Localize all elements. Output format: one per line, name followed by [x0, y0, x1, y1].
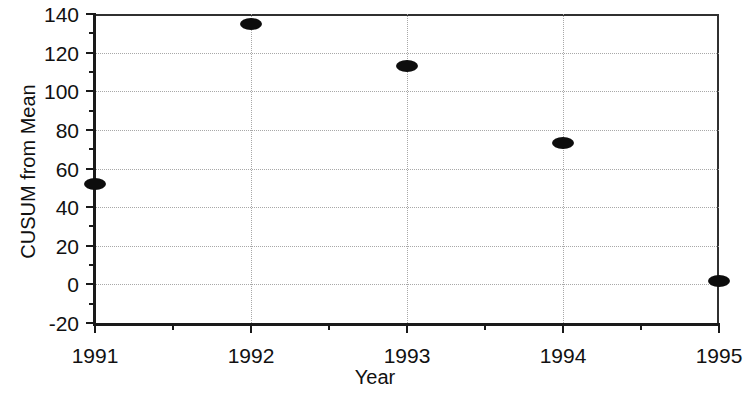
- y-tick-major: [86, 245, 96, 247]
- data-point: [240, 18, 262, 30]
- data-point: [552, 137, 574, 149]
- x-tick-major: [406, 323, 408, 333]
- gridline-vertical: [251, 14, 252, 323]
- x-tick-major: [94, 323, 96, 333]
- y-tick-minor: [89, 303, 96, 305]
- y-tick-label: 80: [1, 120, 79, 141]
- y-tick-label: -20: [1, 313, 79, 334]
- y-tick-label: 140: [1, 4, 79, 25]
- x-tick-minor: [172, 323, 174, 330]
- x-tick-label: 1991: [40, 345, 150, 366]
- y-tick-label: 20: [1, 236, 79, 257]
- y-tick-minor: [89, 32, 96, 34]
- y-tick-major: [86, 13, 96, 15]
- x-tick-label: 1993: [352, 345, 462, 366]
- plot-area: [95, 14, 719, 323]
- x-tick-major: [718, 323, 720, 333]
- y-tick-minor: [89, 71, 96, 73]
- y-tick-minor: [89, 225, 96, 227]
- x-tick-minor: [484, 323, 486, 330]
- y-tick-major: [86, 52, 96, 54]
- y-tick-label: 40: [1, 197, 79, 218]
- x-tick-label: 1992: [196, 345, 306, 366]
- y-tick-major: [86, 129, 96, 131]
- y-tick-label: 100: [1, 81, 79, 102]
- y-tick-label: 60: [1, 159, 79, 180]
- x-tick-label: 1994: [508, 345, 618, 366]
- x-axis-title: Year: [0, 366, 750, 389]
- cusum-scatter-chart: CUSUM from Mean Year 140120100806040200-…: [0, 0, 750, 397]
- x-tick-major: [562, 323, 564, 333]
- data-point: [84, 178, 106, 190]
- y-tick-label: 0: [1, 274, 79, 295]
- x-tick-label: 1995: [664, 345, 750, 366]
- y-tick-major: [86, 168, 96, 170]
- gridline-vertical: [563, 14, 564, 323]
- y-tick-minor: [89, 148, 96, 150]
- x-tick-minor: [640, 323, 642, 330]
- data-point: [396, 60, 418, 72]
- x-tick-major: [250, 323, 252, 333]
- x-tick-minor: [328, 323, 330, 330]
- y-tick-minor: [89, 264, 96, 266]
- y-tick-major: [86, 283, 96, 285]
- data-point: [708, 275, 730, 287]
- y-axis-line: [93, 14, 96, 325]
- y-tick-major: [86, 90, 96, 92]
- y-tick-minor: [89, 110, 96, 112]
- y-tick-major: [86, 206, 96, 208]
- y-tick-label: 120: [1, 43, 79, 64]
